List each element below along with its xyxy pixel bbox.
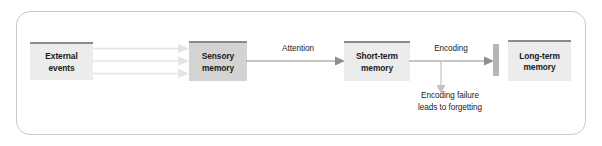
edge-label-encoding: Encoding xyxy=(418,44,484,53)
edge-label-encoding-failure: Encoding failure leads to forgetting xyxy=(394,90,506,113)
faint-triple-arrow-icon xyxy=(93,44,190,78)
memory-model-diagram: External events Sensory memory Attention… xyxy=(0,0,602,146)
edge-external-to-sensory xyxy=(93,44,190,78)
node-external-events-label: External events xyxy=(45,50,77,73)
node-long-term-memory: Long-term memory xyxy=(508,40,571,81)
edge-label-attention: Attention xyxy=(262,44,334,53)
node-sensory-memory-label: Sensory memory xyxy=(202,50,234,73)
encoding-gate-bar xyxy=(493,44,499,76)
arrow-right-icon xyxy=(246,50,346,72)
node-sensory-memory: Sensory memory xyxy=(189,41,247,81)
node-long-term-memory-label: Long-term memory xyxy=(519,50,560,73)
node-external-events: External events xyxy=(30,42,93,80)
node-short-term-memory-label: Short-term memory xyxy=(356,50,398,73)
edge-sensory-to-short-term xyxy=(246,50,346,72)
node-short-term-memory: Short-term memory xyxy=(344,41,410,81)
